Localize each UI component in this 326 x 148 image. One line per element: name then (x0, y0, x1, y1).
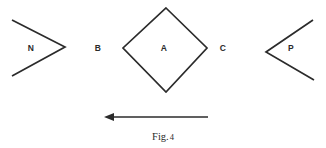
label-p: P (288, 44, 294, 53)
left-chevron-shape-n (12, 20, 65, 76)
figure-drawing-canvas (0, 0, 326, 148)
figure-caption: Fig.4 (152, 132, 174, 143)
figure-caption-prefix: Fig. (152, 131, 169, 142)
label-n: N (28, 44, 34, 53)
label-b: B (95, 44, 101, 53)
arrow-head-left-icon (104, 113, 114, 121)
label-c: C (220, 44, 226, 53)
figure-container: N B A C P Fig.4 (0, 0, 326, 148)
figure-caption-number: 4 (170, 132, 174, 142)
label-a: A (161, 44, 167, 53)
